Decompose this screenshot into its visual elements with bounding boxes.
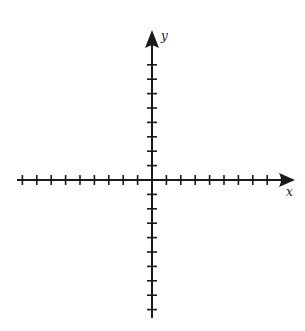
y-axis-label: y — [160, 29, 168, 43]
coordinate-plane: x y — [0, 0, 305, 331]
y-axis: y — [145, 29, 168, 318]
x-axis-label: x — [286, 185, 293, 199]
